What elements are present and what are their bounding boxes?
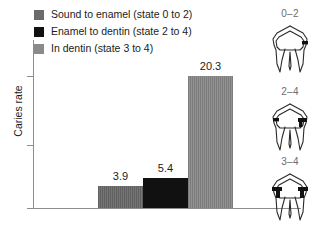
- y-axis-label: Caries rate: [12, 71, 24, 151]
- tooth-illustration-icon: [262, 20, 318, 76]
- bar-texture: [98, 186, 143, 208]
- tooth-diagram-label: 0–2: [258, 8, 322, 20]
- y-axis-tick: [27, 208, 34, 209]
- tooth-diagram-0-2: 0–2: [258, 8, 322, 76]
- bar-value-label: 3.9: [98, 170, 143, 182]
- lesion-marker-left: [273, 118, 279, 121]
- tooth-diagram-2-4: 2–4: [258, 86, 322, 154]
- bar-in-dentin: [188, 76, 233, 208]
- lesion-marker-right-deep: [300, 187, 304, 198]
- y-axis-tick: [27, 76, 34, 77]
- tooth-illustration-icon: [262, 98, 318, 154]
- caries-rate-bar-chart-figure: Sound to enamel (state 0 to 2) Enamel to…: [0, 0, 324, 225]
- bar-enamel-to-dentin: [143, 178, 188, 208]
- tooth-illustration-icon: [262, 168, 318, 224]
- tooth-diagram-label: 3–4: [258, 156, 322, 168]
- lesion-marker-right-deep: [299, 118, 302, 127]
- lesion-marker-right: [302, 41, 308, 44]
- bar-sound-to-enamel: [98, 186, 143, 208]
- tooth-diagram-3-4: 3–4: [258, 156, 322, 224]
- tooth-diagram-label: 2–4: [258, 86, 322, 98]
- y-axis-line: [33, 40, 34, 209]
- bar-texture: [188, 76, 233, 208]
- lesion-marker-left-deep: [276, 187, 280, 198]
- bar-value-label: 20.3: [188, 60, 233, 72]
- y-axis-tick: [27, 145, 34, 146]
- bar-value-label: 5.4: [143, 162, 188, 174]
